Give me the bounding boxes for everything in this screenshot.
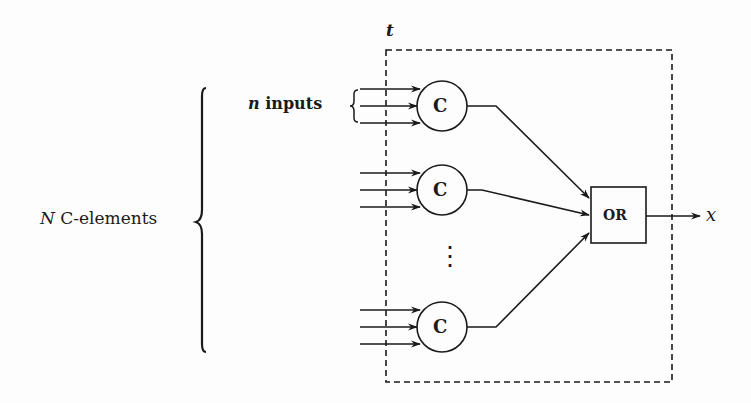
celement-3-label: C — [433, 316, 447, 337]
celement-2-output — [467, 190, 589, 215]
celement-1-label: C — [433, 95, 447, 116]
celement-2-label: C — [433, 179, 447, 200]
celement-1-inputs — [360, 89, 420, 123]
celements-text: C-elements — [55, 208, 157, 228]
output-label-x: x — [706, 204, 716, 225]
small-brace-icon — [350, 90, 358, 122]
diagram-svg — [0, 0, 751, 403]
or-label: OR — [603, 207, 627, 223]
celement-2-inputs — [360, 173, 420, 207]
box-label-t: t — [386, 20, 394, 40]
celement-1-output — [467, 106, 589, 198]
N-var: N — [40, 208, 55, 228]
n-celements-label: N C-elements — [40, 208, 157, 228]
celement-3-output — [467, 233, 589, 327]
celement-3-inputs — [360, 310, 420, 344]
n-inputs-label: n inputs — [248, 94, 322, 113]
n-var: n — [248, 94, 260, 113]
inputs-text: inputs — [260, 94, 323, 113]
big-brace-icon — [196, 88, 206, 352]
diagram-canvas: t n inputs N C-elements C C C ⋮ OR x — [0, 0, 751, 403]
vertical-ellipsis: ⋮ — [437, 243, 463, 269]
